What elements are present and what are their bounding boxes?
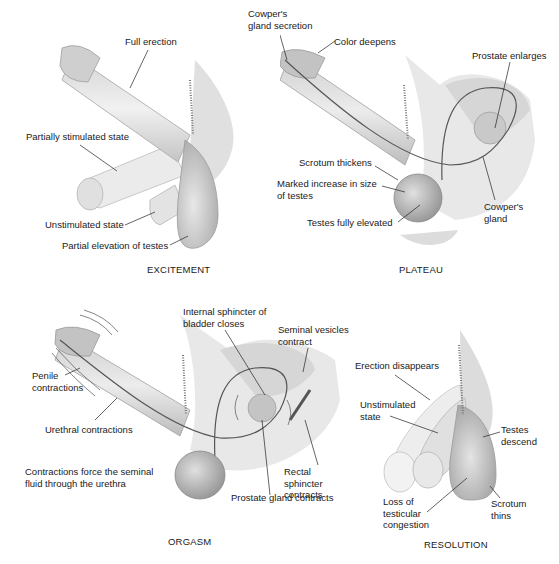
label-scrotum-thickens: Scrotum thickens: [299, 157, 372, 169]
panel-resolution: Erection disappears Unstimulated state T…: [370, 320, 559, 564]
label-full-erection: Full erection: [125, 36, 177, 48]
label-unstimulated-state: Unstimulated state: [360, 399, 415, 422]
panel-title-orgasm: ORGASM: [168, 536, 211, 547]
label-prostate-enlarges: Prostate enlarges: [472, 50, 546, 62]
panel-title-plateau: PLATEAU: [399, 264, 443, 275]
label-testes-descend: Testes descend: [501, 424, 537, 447]
label-urethral-contractions: Urethral contractions: [45, 424, 133, 436]
label-partially-stimulated-state: Partially stimulated state: [26, 131, 129, 143]
label-loss-of-testicular-congestion: Loss of testicular congestion: [383, 496, 429, 531]
label-partial-elevation-of-testes: Partial elevation of testes: [62, 240, 168, 252]
label-cowpers-gland-secretion: Cowper's gland secretion: [248, 8, 312, 31]
label-testes-fully-elevated: Testes fully elevated: [307, 217, 393, 229]
label-scrotum-thins: Scrotum thins: [491, 498, 526, 521]
label-contractions-force-seminal-fluid: Contractions force the seminal fluid thr…: [25, 466, 153, 489]
panel-title-resolution: RESOLUTION: [424, 539, 488, 550]
label-prostate-gland-contracts: Prostate gland contracts: [231, 492, 333, 504]
label-internal-sphincter-of-bladder-closes: Internal sphincter of bladder closes: [183, 306, 266, 329]
label-seminal-vesicles-contract: Seminal vesicles contract: [278, 324, 349, 347]
label-cowpers-gland: Cowper's gland: [484, 201, 523, 224]
label-unstimulated-state: Unstimulated state: [45, 219, 124, 231]
plateau-illustration: [280, 0, 559, 280]
panel-orgasm: Internal sphincter of bladder closes Sem…: [0, 290, 350, 564]
label-color-deepens: Color deepens: [334, 36, 396, 48]
label-penile-contractions: Penile contractions: [32, 370, 83, 393]
label-erection-disappears: Erection disappears: [355, 360, 439, 372]
label-marked-increase-in-size-of-testes: Marked increase in size of testes: [277, 178, 377, 201]
panel-excitement: Full erection Partially stimulated state…: [0, 0, 280, 280]
panel-plateau: Cowper's gland secretion Color deepens P…: [280, 0, 559, 280]
panel-title-excitement: EXCITEMENT: [147, 264, 210, 275]
